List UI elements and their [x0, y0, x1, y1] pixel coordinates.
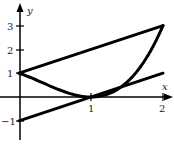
- series-curve: [19, 26, 163, 97]
- x-tick-label-1: 1: [88, 103, 94, 114]
- y-tick-label-3: 3: [7, 21, 13, 32]
- x-axis-arrow-icon: [164, 94, 173, 101]
- x-axis-label: x: [162, 81, 168, 92]
- y-tick-label-minus1: −1: [1, 116, 16, 127]
- chart-figure: 3 2 1 −1 1 2 y x: [0, 0, 174, 147]
- y-axis-label: y: [26, 5, 33, 16]
- y-tick-label-2: 2: [7, 45, 13, 56]
- x-tick-label-2: 2: [159, 103, 165, 114]
- y-tick-label-1: 1: [7, 68, 13, 79]
- y-axis-arrow-icon: [17, 3, 24, 12]
